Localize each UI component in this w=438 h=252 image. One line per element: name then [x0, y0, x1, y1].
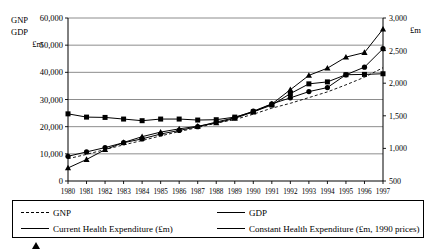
svg-text:1993: 1993 [302, 188, 317, 196]
svg-text:1996: 1996 [357, 188, 372, 196]
legend-item-constant-health-expenditure: Constant Health Expenditure (£m, 1990 pr… [217, 221, 419, 236]
svg-text:40,000: 40,000 [40, 67, 63, 77]
plot-canvas: 1980198119821983198419851986198719881989… [0, 0, 438, 196]
svg-text:1,500: 1,500 [389, 112, 407, 121]
gridlines [68, 18, 383, 154]
legend-item-gnp: GNP [21, 205, 71, 220]
svg-text:1981: 1981 [79, 188, 94, 196]
svg-text:1988: 1988 [209, 188, 224, 196]
line-chart: GNP GDP £m £m 19801981198219831984198519… [0, 0, 438, 196]
svg-text:0: 0 [59, 176, 63, 186]
legend-swatch-gdp [217, 207, 245, 219]
solid-line-icon [217, 228, 245, 229]
legend-swatch-current-health-expenditure [21, 223, 49, 235]
svg-text:1992: 1992 [283, 188, 298, 196]
svg-text:20,000: 20,000 [40, 122, 63, 132]
right-axis-tick-labels: 5001,0001,5002,0002,5003,000 [389, 14, 407, 186]
svg-text:1983: 1983 [116, 188, 131, 196]
svg-text:2,500: 2,500 [389, 47, 407, 56]
svg-text:1991: 1991 [265, 188, 280, 196]
legend-item-gdp: GDP [217, 205, 267, 220]
svg-text:1982: 1982 [98, 188, 113, 196]
svg-text:3,000: 3,000 [389, 14, 407, 23]
dashed-line-icon [21, 212, 49, 213]
svg-text:1986: 1986 [172, 188, 187, 196]
data-series-layer [65, 26, 386, 170]
legend-swatch-gnp [21, 207, 49, 219]
legend-label-constant-health-expenditure: Constant Health Expenditure (£m, 1990 pr… [245, 224, 419, 234]
svg-text:1985: 1985 [153, 188, 168, 196]
svg-text:1,000: 1,000 [389, 144, 407, 153]
svg-text:1990: 1990 [246, 188, 261, 196]
svg-text:2,000: 2,000 [389, 79, 407, 88]
svg-text:50,000: 50,000 [40, 40, 63, 50]
legend-item-current-health-expenditure: Current Health Expenditure (£m) [21, 221, 173, 236]
svg-text:10,000: 10,000 [40, 149, 63, 159]
legend-label-gdp: GDP [245, 208, 267, 218]
svg-text:1987: 1987 [191, 188, 206, 196]
svg-text:30,000: 30,000 [40, 95, 63, 105]
svg-text:1995: 1995 [339, 188, 354, 196]
svg-text:1980: 1980 [61, 188, 76, 196]
svg-text:60,000: 60,000 [40, 13, 63, 23]
svg-text:1997: 1997 [376, 188, 391, 196]
solid-line-icon [217, 212, 245, 213]
left-axis-tick-labels: 010,00020,00030,00040,00050,00060,000 [40, 13, 63, 186]
legend-swatch-constant-health-expenditure [217, 223, 245, 235]
triangle-marker-icon [32, 225, 40, 243]
legend-label-gnp: GNP [49, 208, 71, 218]
legend-label-current-health-expenditure: Current Health Expenditure (£m) [49, 224, 173, 234]
svg-text:500: 500 [389, 177, 401, 186]
chart-legend: GNP GDP Current Health Expenditure (£m) … [12, 200, 424, 238]
svg-text:1984: 1984 [135, 188, 150, 196]
svg-text:1989: 1989 [228, 188, 243, 196]
svg-text:1994: 1994 [320, 188, 335, 196]
x-axis-tick-labels: 1980198119821983198419851986198719881989… [61, 188, 391, 196]
chart-screenshot: GNP GDP £m £m 19801981198219831984198519… [0, 0, 438, 252]
